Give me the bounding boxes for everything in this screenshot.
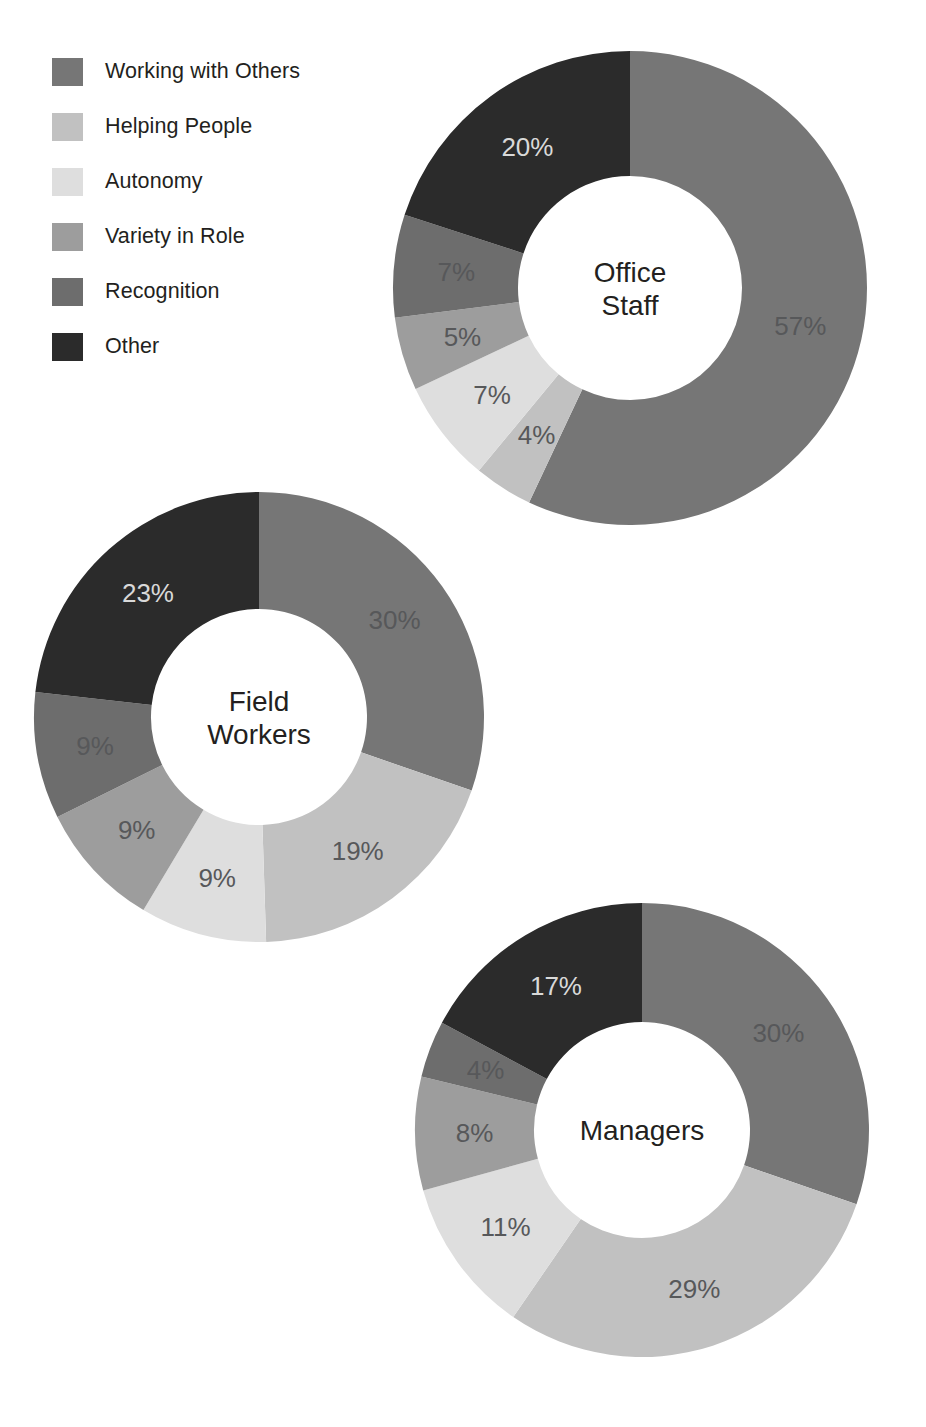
slice-percent-label: 23% — [122, 578, 174, 608]
legend-item-label: Working with Others — [105, 59, 300, 84]
legend-item-label: Other — [105, 334, 159, 359]
legend-item: Other — [52, 319, 300, 374]
donut-chart: 57%4%7%5%7%20%OfficeStaff — [389, 47, 871, 529]
donut-slice — [642, 903, 869, 1204]
legend-swatch-icon — [52, 58, 83, 86]
donut-chart: 30%19%9%9%9%23%FieldWorkers — [30, 488, 488, 946]
legend-item: Helping People — [52, 99, 300, 154]
slice-percent-label: 19% — [332, 836, 384, 866]
donut-slice — [513, 1165, 856, 1357]
slice-percent-label: 9% — [198, 863, 236, 893]
chart-center-title: Managers — [580, 1115, 705, 1146]
legend-item: Working with Others — [52, 44, 300, 99]
legend-swatch-icon — [52, 168, 83, 196]
legend-swatch-icon — [52, 113, 83, 141]
slice-percent-label: 9% — [118, 815, 156, 845]
legend-item-label: Autonomy — [105, 169, 203, 194]
legend-item-label: Recognition — [105, 279, 220, 304]
slice-percent-label: 30% — [369, 605, 421, 635]
slice-percent-label: 20% — [501, 132, 553, 162]
slice-percent-label: 4% — [518, 420, 556, 450]
slice-percent-label: 9% — [76, 731, 114, 761]
slice-percent-label: 17% — [530, 971, 582, 1001]
slice-percent-label: 7% — [473, 380, 511, 410]
slice-percent-label: 8% — [456, 1118, 494, 1148]
legend-swatch-icon — [52, 223, 83, 251]
chart-legend: Working with OthersHelping PeopleAutonom… — [52, 44, 300, 374]
slice-percent-label: 29% — [668, 1274, 720, 1304]
legend-swatch-icon — [52, 333, 83, 361]
chart-center-title: Staff — [601, 290, 658, 321]
legend-item-label: Helping People — [105, 114, 252, 139]
slice-percent-label: 4% — [467, 1055, 505, 1085]
legend-item: Recognition — [52, 264, 300, 319]
legend-item: Variety in Role — [52, 209, 300, 264]
legend-swatch-icon — [52, 278, 83, 306]
chart-center-title: Office — [594, 257, 667, 288]
slice-percent-label: 7% — [437, 257, 475, 287]
chart-center-title: Workers — [207, 719, 311, 750]
legend-item-label: Variety in Role — [105, 224, 245, 249]
legend-item: Autonomy — [52, 154, 300, 209]
donut-chart: 30%29%11%8%4%17%Managers — [411, 899, 873, 1361]
slice-percent-label: 57% — [774, 311, 826, 341]
chart-center-title: Field — [229, 686, 290, 717]
slice-percent-label: 5% — [444, 322, 482, 352]
slice-percent-label: 11% — [481, 1212, 531, 1242]
slice-percent-label: 30% — [752, 1018, 804, 1048]
